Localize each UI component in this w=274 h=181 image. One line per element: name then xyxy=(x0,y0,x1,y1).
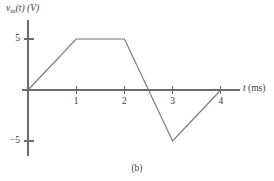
x-tick-label-4: 4 xyxy=(214,97,228,107)
y-axis-title: vin(t) (V) xyxy=(6,4,39,14)
figure-panel: vin(t) (V) t (ms) 1 2 3 4 5 −5 (b) xyxy=(0,0,274,181)
figure-caption: (b) xyxy=(0,163,274,173)
waveform-plot xyxy=(0,0,274,181)
x-tick-label-3: 3 xyxy=(166,97,180,107)
x-axis-title: t (ms) xyxy=(243,84,265,94)
y-axis-title-units: (t) (V) xyxy=(16,3,39,13)
x-tick-label-2: 2 xyxy=(117,97,131,107)
y-tick-label-pos5: 5 xyxy=(4,34,20,44)
x-tick-label-1: 1 xyxy=(69,97,83,107)
x-axis-title-units: (ms) xyxy=(246,83,266,93)
y-tick-label-neg5: −5 xyxy=(4,136,20,146)
